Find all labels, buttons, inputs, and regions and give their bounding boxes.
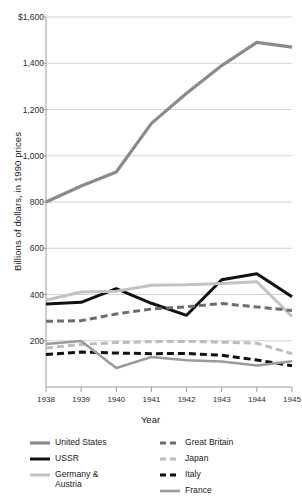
legend-item[interactable]: Japan xyxy=(160,453,292,464)
x-tick-label: 1942 xyxy=(178,395,196,404)
x-tick-label: 1943 xyxy=(213,395,231,404)
legend-item-label: USSR xyxy=(55,453,79,463)
x-tick-label: 1940 xyxy=(107,395,125,404)
legend-item-label: Japan xyxy=(185,453,208,463)
legend-item-label: Germany & Austria xyxy=(55,469,98,489)
legend-item[interactable]: United States xyxy=(30,437,160,448)
legend-item-label: United States xyxy=(55,437,107,447)
x-tick-label: 1938 xyxy=(37,395,55,404)
x-tick-label: 1941 xyxy=(143,395,161,404)
legend-item[interactable]: Great Britain xyxy=(160,437,292,448)
legend-item[interactable]: France xyxy=(160,485,292,496)
legend-item-label: Great Britain xyxy=(185,437,233,447)
legend-item[interactable]: Italy xyxy=(160,469,292,480)
legend-column-right: Great BritainJapanItalyFrance xyxy=(160,437,292,496)
legend-item[interactable]: Germany & Austria xyxy=(30,469,160,489)
x-tick-label: 1944 xyxy=(248,395,266,404)
series-line xyxy=(46,282,292,317)
legend-item-label: France xyxy=(185,485,212,495)
x-tick-label: 1945 xyxy=(283,395,301,404)
x-axis-title: Year xyxy=(0,414,301,425)
x-tick-label: 1939 xyxy=(72,395,90,404)
series-line xyxy=(46,42,292,202)
legend-swatch-icon xyxy=(160,438,180,448)
x-axis-ticks xyxy=(46,387,292,392)
legend-swatch-icon xyxy=(30,438,50,448)
legend-swatch-icon xyxy=(160,454,180,464)
legend: United StatesUSSRGermany & Austria Great… xyxy=(30,437,292,496)
legend-column-left: United StatesUSSRGermany & Austria xyxy=(30,437,160,496)
legend-item-label: Italy xyxy=(185,469,201,479)
legend-swatch-icon xyxy=(30,470,50,480)
legend-item[interactable]: USSR xyxy=(30,453,160,464)
legend-swatch-icon xyxy=(30,454,50,464)
series-line xyxy=(46,304,292,322)
plot-area xyxy=(0,0,301,400)
legend-swatch-icon xyxy=(160,486,180,496)
legend-swatch-icon xyxy=(160,470,180,480)
series-lines xyxy=(46,42,292,368)
